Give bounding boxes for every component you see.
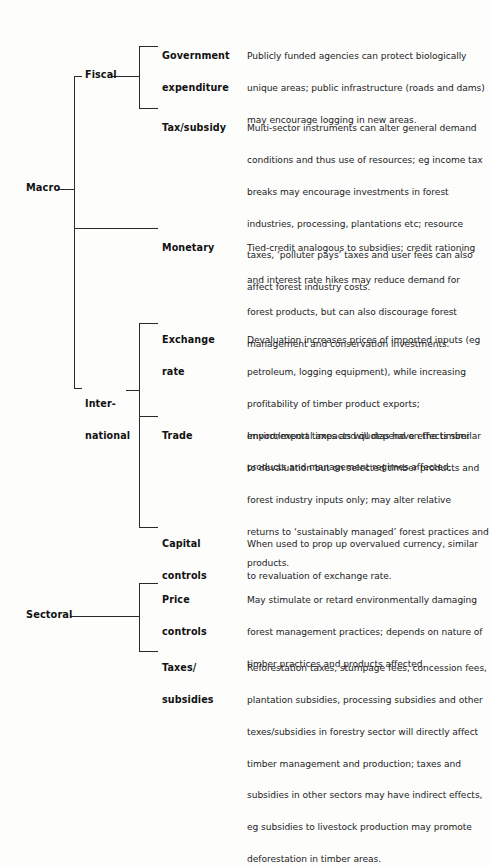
- tax-subsidy-branch: [139, 108, 158, 109]
- desc-line: breaks may encourage investments in fore…: [247, 187, 483, 198]
- desc-line: Multi-sector instruments can alter gener…: [247, 123, 483, 134]
- label-line: subsidies: [162, 695, 214, 706]
- label-line: Monetary: [162, 243, 214, 254]
- group-international: Inter- national: [85, 378, 130, 452]
- label-line: Trade: [162, 431, 193, 442]
- desc-line: unique areas; public infrastructure (roa…: [247, 83, 485, 94]
- sectoral-spine: [139, 583, 140, 651]
- desc-line: Reforestation taxes, stumpage fees, conc…: [247, 663, 487, 674]
- label-line: Exchange: [162, 335, 215, 346]
- desc-line: texes/subsidies in forestry sector will …: [247, 727, 487, 738]
- label-line: rate: [162, 367, 215, 378]
- international-spine: [139, 323, 140, 527]
- capital-controls-branch: [139, 527, 158, 528]
- taxes-subsidies-branch: [139, 651, 158, 652]
- trade-branch: [139, 416, 158, 417]
- macro-spine: [74, 76, 75, 389]
- label-line: expenditure: [162, 83, 230, 94]
- desc-line: and interest rate hikes may reduce deman…: [247, 275, 475, 286]
- label-line: Government: [162, 51, 230, 62]
- item-government-expenditure: Government expenditure: [162, 30, 230, 104]
- desc-line: conditions and thus use of resources; eg…: [247, 155, 483, 166]
- gov-exp-branch: [139, 46, 158, 47]
- desc-line: profitability of timber product exports;: [247, 399, 480, 410]
- group-international-line-2: national: [85, 431, 130, 442]
- desc-line: When used to prop up overvalued currency…: [247, 539, 478, 550]
- group-international-line-1: Inter-: [85, 399, 130, 410]
- desc-line: subsidies in other sectors may have indi…: [247, 790, 487, 801]
- item-exchange-rate: Exchange rate: [162, 314, 215, 388]
- label-line: Price: [162, 595, 207, 606]
- desc-line: deforestation in timber areas.: [247, 854, 487, 865]
- item-price-controls: Price controls: [162, 574, 207, 648]
- desc-line: Publicly funded agencies can protect bio…: [247, 51, 485, 62]
- desc-line: Import/export taxes and quotas have effe…: [247, 431, 489, 442]
- fiscal-stub: [74, 76, 82, 77]
- desc-line: to devaluation but on selected timber pr…: [247, 463, 489, 474]
- fiscal-spine: [139, 46, 140, 108]
- desc-line: Devaluation increases prices of imported…: [247, 335, 480, 346]
- group-fiscal: Fiscal: [85, 70, 117, 81]
- desc-line: plantation subsidies, processing subsidi…: [247, 695, 487, 706]
- monetary-branch: [74, 228, 158, 229]
- desc-line: May stimulate or retard environmentally …: [247, 595, 482, 606]
- desc-line: timber management and production; taxes …: [247, 759, 487, 770]
- item-taxes-subsidies: Taxes/ subsidies: [162, 642, 214, 716]
- item-tax-subsidy: Tax/subsidy: [162, 102, 226, 144]
- label-line: Capital: [162, 539, 207, 550]
- desc-line: forest management practices; depends on …: [247, 627, 482, 638]
- desc-line: petroleum, logging equipment), while inc…: [247, 367, 480, 378]
- item-monetary: Monetary: [162, 222, 214, 264]
- description-taxes-subsidies: Reforestation taxes, stumpage fees, conc…: [247, 642, 487, 866]
- label-line: Tax/subsidy: [162, 123, 226, 134]
- exchange-rate-branch: [139, 323, 158, 324]
- desc-line: Tied-credit analogous to subsidies; cred…: [247, 243, 475, 254]
- desc-line: forest industry inputs only; may alter r…: [247, 495, 489, 506]
- desc-line: eg subsidies to livestock production may…: [247, 822, 487, 833]
- international-stub: [74, 388, 82, 389]
- price-controls-branch: [139, 583, 158, 584]
- root-macro: Macro: [26, 183, 60, 194]
- item-trade: Trade: [162, 410, 193, 452]
- sectoral-connector: [71, 616, 139, 617]
- label-line: Taxes/: [162, 663, 214, 674]
- label-line: controls: [162, 627, 207, 638]
- root-sectoral: Sectoral: [26, 610, 73, 621]
